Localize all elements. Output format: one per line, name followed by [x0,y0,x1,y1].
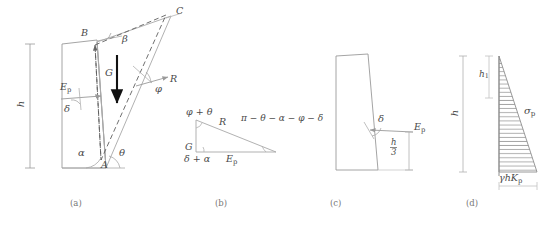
panel-a-r-normal [133,66,152,83]
panel-a-r-arrow [136,77,168,86]
panel-a-alpha-label: α [78,148,85,158]
caption-d: (d) [466,198,478,208]
panel-b-reaction-label: R [219,117,226,127]
panel-a-delta-arc [71,100,80,104]
panel-a-vertex-c-label: C [176,6,183,16]
panel-d-height-label: h [452,108,458,118]
panel-c-lever-arm-label: h 3 [390,138,397,156]
panel-b-force-triangle [196,120,276,152]
panel-b-right-angle-label: π − θ − α − φ − δ [241,114,323,123]
panel-a-weight-label: G [105,68,113,78]
panel-a-vertex-b-label: B [81,28,88,38]
panel-a-delta-label: δ [64,104,70,114]
panel-c-ep-label: Ep [414,122,425,133]
panel-a-beta-label: β [122,34,128,44]
panel-b-graphics [196,120,276,152]
panel-a-alpha-arc [86,158,101,168]
panel-c-delta-arc [372,128,381,136]
panel-a-ep-arrow [61,96,101,99]
panel-b-top-angle-arc [196,123,202,128]
panel-c-graphics [336,54,413,170]
panel-b-bottom-angle-arc [203,147,204,152]
panel-d-stress-label: σp [524,106,535,117]
panel-a-vertex-a-label: A [101,160,108,170]
panel-a-ep-normal [79,88,81,110]
panel-a-phi-label: φ [155,84,162,94]
caption-c: (c) [330,198,341,208]
panel-a-height-dimension [25,44,35,168]
panel-a-reaction-label: R [170,74,177,84]
panel-c-wall [336,54,378,170]
panel-d-base-pressure-label: γhKp [499,173,522,184]
panel-d-depth-label: h1 [479,70,489,80]
figure-container: h B C A β G Ep δ R φ α θ φ + θ R π − θ −… [0,0,559,226]
panel-a-height-label: h [18,99,24,109]
panel-a-theta-label: θ [119,148,125,158]
caption-b: (b) [215,198,227,208]
panel-b-top-angle-label: φ + θ [186,107,212,117]
panel-b-vertex-label: G [185,142,193,152]
panel-d-graphics [459,56,537,190]
caption-a: (a) [70,198,82,208]
panel-b-ep-label: Ep [226,154,237,165]
panel-c-delta-label: δ [378,114,384,124]
panel-a-ep-label: Ep [60,82,71,93]
panel-b-bottom-angle-label: δ + α [184,154,210,164]
